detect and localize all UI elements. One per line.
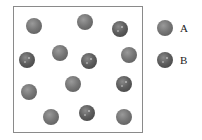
particle-a-icon (43, 109, 59, 125)
particle-b-icon (19, 52, 35, 68)
legend-b-icon (157, 52, 173, 68)
legend-a-icon (157, 20, 173, 36)
particle-a-icon (77, 14, 93, 30)
legend-label-a: A (180, 22, 188, 34)
particle-a-icon (116, 109, 132, 125)
particle-a-icon (121, 47, 137, 63)
particle-diagram: AB (0, 0, 202, 140)
particle-b-icon (112, 21, 128, 37)
particle-b-icon (81, 53, 97, 69)
particle-a-icon (52, 45, 68, 61)
particle-b-icon (79, 105, 95, 121)
particle-a-icon (26, 18, 42, 34)
legend-label-b: B (180, 54, 187, 66)
particle-b-icon (116, 76, 132, 92)
particle-a-icon (65, 76, 81, 92)
particle-a-icon (21, 84, 37, 100)
